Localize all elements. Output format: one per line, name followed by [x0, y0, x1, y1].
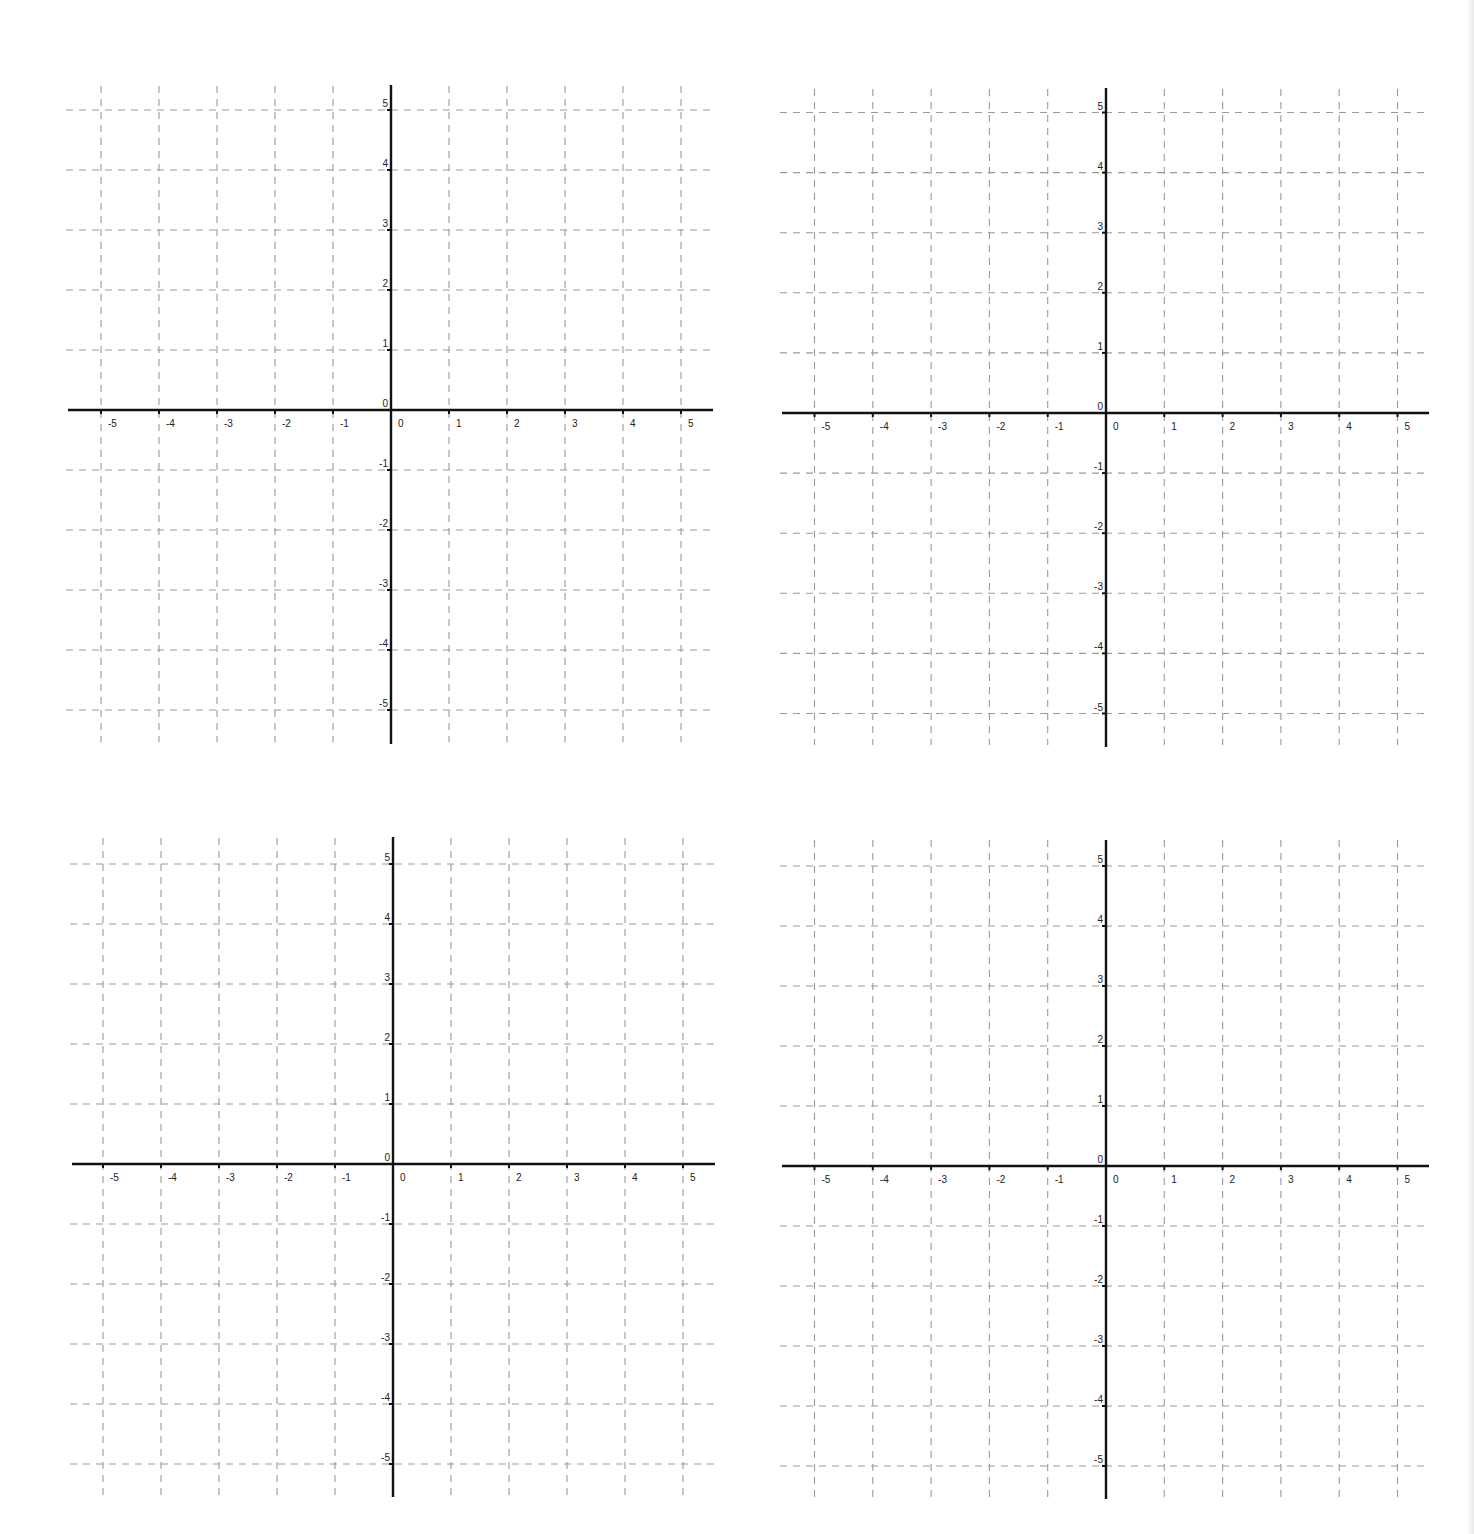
x-tick-label: 1	[1171, 421, 1177, 432]
x-tick-label: -5	[822, 421, 831, 432]
x-tick-label: 2	[1230, 1174, 1236, 1185]
y-tick-label: -2	[1094, 1274, 1103, 1285]
y-tick-label: 2	[384, 1032, 390, 1043]
y-tick-label: 5	[1097, 854, 1103, 865]
x-tick-label: 0	[1113, 421, 1119, 432]
x-tick-label: -3	[938, 1174, 947, 1185]
x-tick-label: 5	[690, 1172, 696, 1183]
y-tick-label: -5	[379, 698, 388, 709]
y-tick-label: -4	[381, 1392, 390, 1403]
x-tick-label: -1	[340, 418, 349, 429]
y-tick-label: 1	[1097, 1094, 1103, 1105]
x-tick-label: 5	[1405, 1174, 1411, 1185]
graph-canvas: -5-4-3-2-1012345543210-1-2-3-4-5	[0, 0, 1474, 1534]
coordinate-plane-bottom-left: -5-4-3-2-1012345543210-1-2-3-4-5	[0, 0, 1474, 1534]
y-tick-label: 2	[1097, 1034, 1103, 1045]
x-tick-label: -1	[1055, 421, 1064, 432]
coordinate-plane-top-left: -5-4-3-2-1012345543210-1-2-3-4-5	[0, 0, 1474, 1534]
y-tick-label: -1	[1094, 461, 1103, 472]
y-tick-label: 5	[382, 98, 388, 109]
x-tick-label: -3	[226, 1172, 235, 1183]
x-tick-label: 0	[398, 418, 404, 429]
x-tick-label: -1	[342, 1172, 351, 1183]
y-tick-label: -5	[1094, 702, 1103, 713]
x-tick-label: -2	[284, 1172, 293, 1183]
y-tick-label: 0	[384, 1152, 390, 1163]
x-tick-label: -4	[880, 1174, 889, 1185]
y-tick-label: -2	[381, 1272, 390, 1283]
scan-edge-shadow	[1466, 0, 1474, 1534]
coordinate-plane-top-right: -5-4-3-2-1012345543210-1-2-3-4-5	[0, 0, 1474, 1534]
x-tick-label: 2	[516, 1172, 522, 1183]
x-tick-label: 3	[1288, 1174, 1294, 1185]
gridlines	[66, 86, 713, 742]
gridlines	[70, 838, 715, 1495]
y-tick-label: -2	[379, 518, 388, 529]
gridlines	[780, 840, 1429, 1497]
x-tick-label: 1	[456, 418, 462, 429]
y-tick-label: -3	[1094, 581, 1103, 592]
x-tick-label: -4	[166, 418, 175, 429]
x-tick-label: 5	[688, 418, 694, 429]
y-tick-label: -5	[1094, 1454, 1103, 1465]
y-tick-label: 4	[382, 158, 388, 169]
x-tick-label: 1	[1171, 1174, 1177, 1185]
y-tick-label: 5	[1097, 101, 1103, 112]
x-tick-label: -5	[822, 1174, 831, 1185]
y-tick-label: 1	[1097, 341, 1103, 352]
y-tick-label: 1	[382, 338, 388, 349]
y-tick-label: 3	[382, 218, 388, 229]
x-tick-label: 5	[1405, 421, 1411, 432]
x-tick-label: -2	[282, 418, 291, 429]
graph-canvas: -5-4-3-2-1012345543210-1-2-3-4-5	[0, 0, 1474, 1534]
x-tick-label: -3	[938, 421, 947, 432]
y-tick-label: -3	[381, 1332, 390, 1343]
x-tick-label: -2	[996, 1174, 1005, 1185]
y-tick-label: 0	[382, 398, 388, 409]
coordinate-plane-bottom-right: -5-4-3-2-1012345543210-1-2-3-4-5	[0, 0, 1474, 1534]
y-tick-label: 3	[1097, 221, 1103, 232]
y-tick-label: 2	[1097, 281, 1103, 292]
y-tick-label: 2	[382, 278, 388, 289]
y-tick-label: -3	[379, 578, 388, 589]
y-tick-label: 5	[384, 852, 390, 863]
x-tick-label: -2	[996, 421, 1005, 432]
y-tick-label: 1	[384, 1092, 390, 1103]
y-tick-label: -4	[379, 638, 388, 649]
x-tick-label: -4	[880, 421, 889, 432]
x-tick-label: 4	[630, 418, 636, 429]
x-tick-label: 4	[1346, 1174, 1352, 1185]
y-tick-label: 4	[1097, 161, 1103, 172]
y-tick-label: 0	[1097, 1154, 1103, 1165]
x-tick-label: 2	[1230, 421, 1236, 432]
y-tick-label: 3	[384, 972, 390, 983]
y-tick-label: -1	[1094, 1214, 1103, 1225]
x-tick-label: -5	[110, 1172, 119, 1183]
y-tick-label: -4	[1094, 641, 1103, 652]
x-tick-label: 1	[458, 1172, 464, 1183]
graph-canvas: -5-4-3-2-1012345543210-1-2-3-4-5	[0, 0, 1474, 1534]
x-tick-label: -5	[108, 418, 117, 429]
y-tick-label: 3	[1097, 974, 1103, 985]
y-tick-label: -1	[381, 1212, 390, 1223]
y-tick-label: -4	[1094, 1394, 1103, 1405]
y-tick-label: -1	[379, 458, 388, 469]
x-tick-label: 2	[514, 418, 520, 429]
x-tick-label: 3	[574, 1172, 580, 1183]
x-tick-label: -3	[224, 418, 233, 429]
x-tick-label: 0	[1113, 1174, 1119, 1185]
y-tick-label: 4	[384, 912, 390, 923]
x-tick-label: -1	[1055, 1174, 1064, 1185]
x-tick-label: 0	[400, 1172, 406, 1183]
x-tick-label: -4	[168, 1172, 177, 1183]
x-tick-label: 4	[1346, 421, 1352, 432]
graph-canvas: -5-4-3-2-1012345543210-1-2-3-4-5	[0, 0, 1474, 1534]
x-tick-label: 3	[1288, 421, 1294, 432]
y-tick-label: -5	[381, 1452, 390, 1463]
y-tick-label: -3	[1094, 1334, 1103, 1345]
gridlines	[780, 89, 1429, 745]
x-tick-label: 3	[572, 418, 578, 429]
x-tick-label: 4	[632, 1172, 638, 1183]
y-tick-label: 0	[1097, 401, 1103, 412]
y-tick-label: -2	[1094, 521, 1103, 532]
